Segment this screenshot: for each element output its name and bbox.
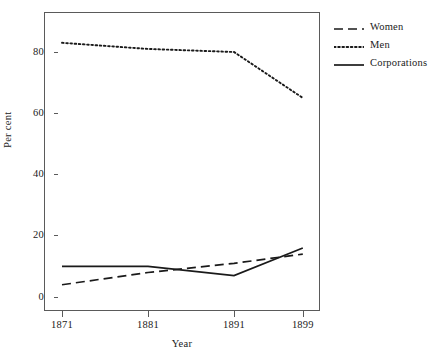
- legend: WomenMenCorporations: [334, 18, 438, 72]
- y-axis-title: Per cent: [2, 111, 13, 148]
- dashed-line-key: [334, 21, 364, 33]
- legend-item-men[interactable]: Men: [334, 36, 438, 54]
- legend-label: Women: [370, 21, 403, 33]
- x-axis-title: Year: [44, 338, 320, 349]
- legend-item-women[interactable]: Women: [334, 18, 438, 36]
- legend-label: Men: [370, 39, 390, 51]
- series-line-men: [62, 43, 303, 98]
- legend-item-corporations[interactable]: Corporations: [334, 54, 438, 72]
- dotted-line-key: [334, 39, 364, 51]
- chart-figure: 020406080 1871188118911899 Per cent Year…: [0, 0, 438, 361]
- legend-label: Corporations: [370, 57, 427, 69]
- series-line-corporations: [62, 248, 303, 276]
- solid-line-key: [334, 57, 364, 69]
